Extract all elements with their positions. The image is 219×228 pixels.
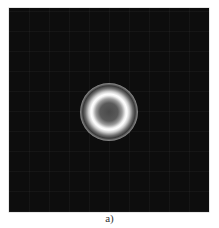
concentric-ring-pattern xyxy=(80,83,138,141)
figure-caption: a) xyxy=(0,212,219,224)
figure-image-panel xyxy=(9,8,209,212)
